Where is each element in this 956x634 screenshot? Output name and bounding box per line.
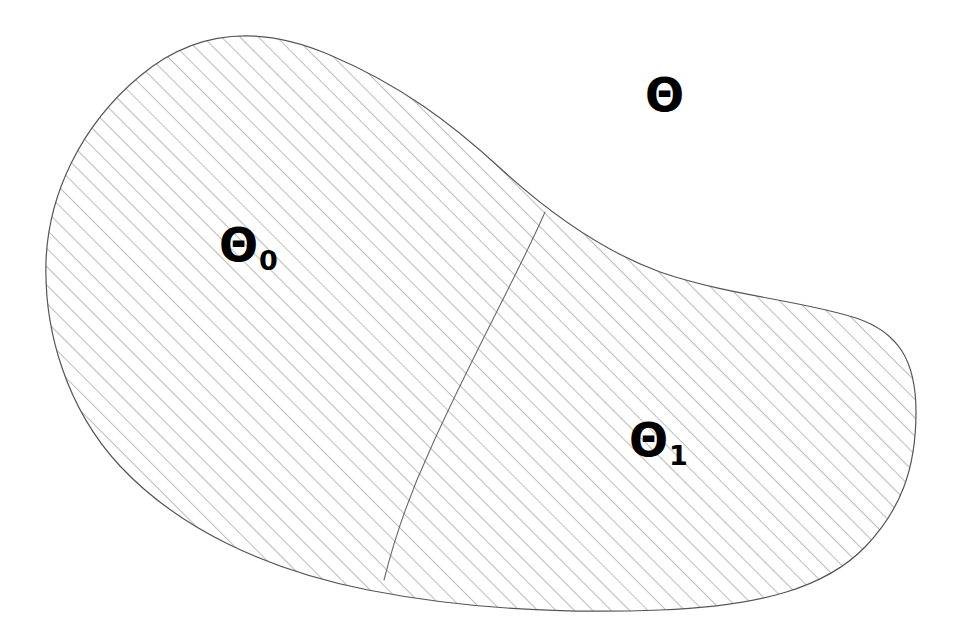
label-null-region-base: Θ bbox=[219, 218, 258, 272]
label-null-region-subscript: 0 bbox=[259, 245, 278, 276]
parameter-space-figure bbox=[0, 0, 956, 634]
label-parameter-space: Θ bbox=[645, 72, 684, 118]
label-alternative-region-base: Θ bbox=[629, 413, 668, 467]
hatched-region-fill bbox=[46, 36, 916, 611]
label-alternative-region: Θ1 bbox=[629, 417, 687, 463]
label-alternative-region-subscript: 1 bbox=[669, 440, 688, 471]
label-parameter-space-base: Θ bbox=[645, 68, 684, 122]
label-null-region: Θ0 bbox=[219, 222, 277, 268]
parameter-space-diagram: Θ Θ0 Θ1 bbox=[0, 0, 956, 634]
